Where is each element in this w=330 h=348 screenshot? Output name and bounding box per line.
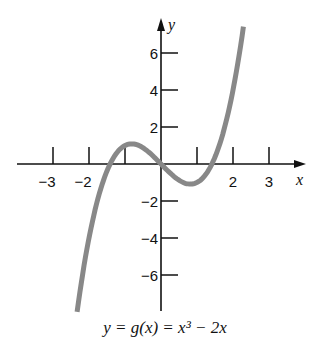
x-tick-label: 3 (265, 173, 273, 190)
function-caption: y = g(x) = x³ − 2x (0, 318, 330, 338)
chart: −3−223 642−2−4−6 x y (0, 0, 330, 348)
y-tick-label: −2 (141, 193, 158, 210)
x-axis-arrow-icon (294, 160, 306, 168)
y-tick-label: −4 (141, 230, 158, 247)
x-tick-label: 2 (229, 173, 237, 190)
y-tick-label: 6 (150, 45, 158, 62)
x-tick-label: −3 (38, 173, 55, 190)
y-tick-label: 2 (150, 119, 158, 136)
x-ticks: −3−223 (38, 147, 273, 190)
y-tick-label: 4 (150, 82, 158, 99)
y-axis-arrow-icon (157, 18, 165, 31)
x-tick-label: −2 (74, 173, 91, 190)
x-axis-label: x (295, 171, 303, 188)
y-tick-label: −6 (141, 267, 158, 284)
y-axis-label: y (166, 16, 176, 34)
